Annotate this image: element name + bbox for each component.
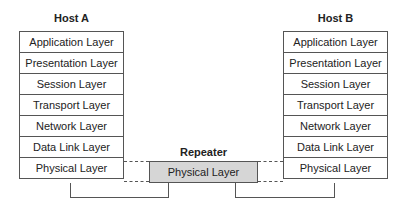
host-b-network-layer: Network Layer xyxy=(284,116,387,137)
host-a-application-layer: Application Layer xyxy=(20,32,123,53)
link-line xyxy=(168,183,169,198)
host-b-title: Host B xyxy=(283,12,388,24)
dashed-connector xyxy=(124,181,149,182)
host-a-physical-layer: Physical Layer xyxy=(20,158,123,178)
link-line xyxy=(334,183,335,198)
host-b-stack: Application Layer Presentation Layer Ses… xyxy=(283,31,388,179)
dashed-connector xyxy=(124,161,149,162)
host-a-network-layer: Network Layer xyxy=(20,116,123,137)
host-b-data-link-layer: Data Link Layer xyxy=(284,137,387,158)
host-a-session-layer: Session Layer xyxy=(20,74,123,95)
host-b-presentation-layer: Presentation Layer xyxy=(284,53,387,74)
link-line xyxy=(70,183,71,198)
host-b-physical-layer: Physical Layer xyxy=(284,158,387,178)
host-b-application-layer: Application Layer xyxy=(284,32,387,53)
dashed-connector xyxy=(258,161,283,162)
host-a-stack: Application Layer Presentation Layer Ses… xyxy=(19,31,124,179)
host-b-transport-layer: Transport Layer xyxy=(284,95,387,116)
repeater-physical-layer: Physical Layer xyxy=(149,161,258,183)
host-a-transport-layer: Transport Layer xyxy=(20,95,123,116)
host-a-presentation-layer: Presentation Layer xyxy=(20,53,123,74)
link-line xyxy=(70,197,169,198)
link-line xyxy=(235,197,335,198)
host-a-data-link-layer: Data Link Layer xyxy=(20,137,123,158)
dashed-connector xyxy=(258,181,283,182)
host-b-session-layer: Session Layer xyxy=(284,74,387,95)
repeater-title: Repeater xyxy=(149,146,258,158)
link-line xyxy=(235,183,236,198)
host-a-title: Host A xyxy=(19,12,124,24)
